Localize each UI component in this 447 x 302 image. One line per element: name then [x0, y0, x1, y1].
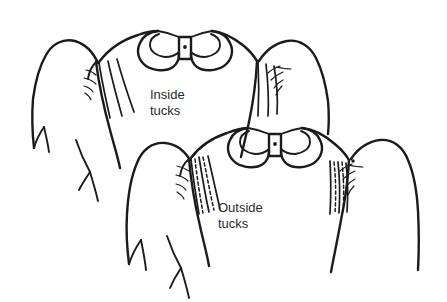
collar-right-wing-2	[281, 128, 322, 167]
collar-left-wing-2	[228, 128, 269, 167]
right-inside-tuck-folds	[258, 62, 277, 116]
right-sleeve-outline-2	[351, 140, 419, 270]
left-bodice-edge	[96, 62, 120, 168]
left-neckline-curve	[99, 31, 158, 62]
label-inside-tucks-line2: tucks	[150, 103, 181, 118]
illustration-canvas: Tucks construction diagram	[0, 0, 447, 302]
collar-button-dot-2	[273, 142, 277, 146]
left-body-lower-lines-2	[167, 236, 189, 298]
collar-right-neck-curve	[191, 34, 220, 57]
tucks-illustration: Tucks construction diagram	[0, 0, 447, 302]
band-top-edge-right	[191, 31, 212, 37]
collar-right-neck-curve-2	[281, 131, 310, 154]
band-top-edge-2	[248, 128, 269, 134]
right-gather-marks	[268, 66, 291, 95]
collar-left-neck-curve	[150, 34, 179, 57]
left-sleeve-outline-2	[127, 143, 190, 270]
label-outside-tucks-line1: Outside	[218, 200, 263, 215]
right-sleeve-outline	[259, 41, 329, 134]
right-neckline-curve	[212, 31, 257, 61]
collar-button-dot	[183, 45, 187, 49]
label-outside-tucks-line2: tucks	[218, 216, 249, 231]
left-gather-marks-2	[176, 166, 189, 199]
right-bodice-edge	[241, 61, 257, 157]
left-body-lower-lines	[76, 140, 98, 201]
right-outside-tuck-folds	[330, 161, 348, 214]
outside-tucks-garment	[127, 128, 419, 298]
collar-right-wing	[191, 31, 232, 70]
label-inside-tucks-line1: Inside	[150, 87, 185, 102]
collar-left-wing	[138, 31, 179, 70]
upper-collar	[138, 31, 232, 70]
left-gather-marks	[84, 70, 96, 100]
band-top-edge-right-2	[281, 128, 302, 134]
band-top-edge	[158, 31, 179, 37]
lower-collar	[228, 128, 322, 167]
